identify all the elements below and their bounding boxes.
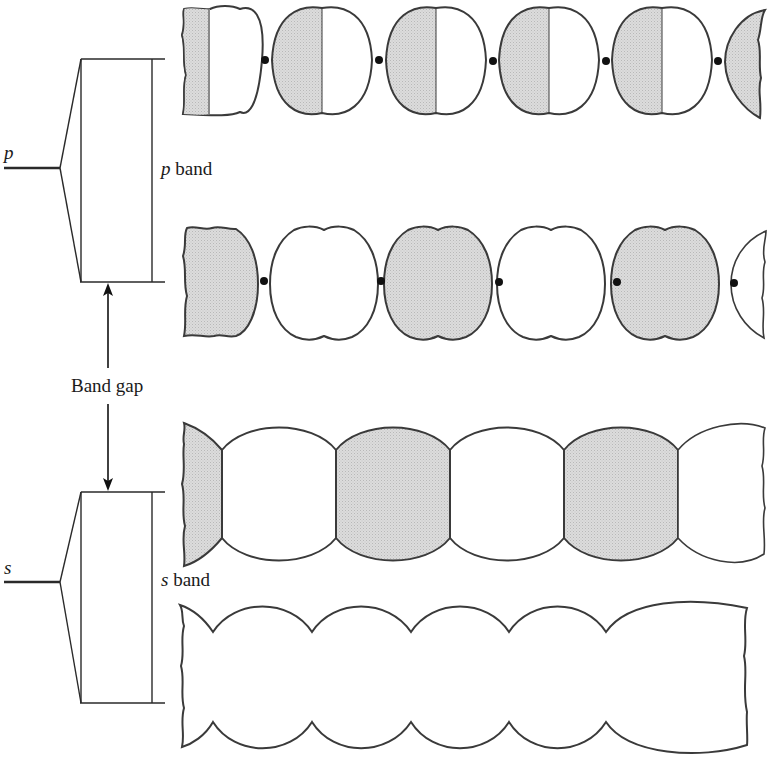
orbital-partial-left <box>183 227 258 336</box>
node-dot <box>495 278 503 286</box>
s-fan-upper-line <box>60 492 81 582</box>
p-band-antibonding-row <box>183 227 766 340</box>
p-level-label: p <box>4 143 14 162</box>
s-bonding-band-outline <box>180 602 747 753</box>
s-level-label: s <box>4 558 11 577</box>
p-band-bonding-row <box>182 6 765 118</box>
node-dot <box>613 278 621 286</box>
p-band-label: p band <box>161 159 212 178</box>
p-orbital-1 <box>272 7 372 114</box>
s-band-bonding-row <box>180 602 747 753</box>
node-dot <box>602 57 610 65</box>
node-dot <box>375 56 383 64</box>
p-orbital-white-2 <box>497 227 605 340</box>
p-band-word: band <box>175 158 212 179</box>
node-dot <box>489 57 497 65</box>
p-orbital-shaded-2 <box>611 227 719 340</box>
p-orbital-3 <box>499 7 599 114</box>
s-segment-white-2 <box>450 428 564 561</box>
s-segment-partial-left <box>182 423 222 566</box>
node-dot <box>261 56 269 64</box>
s-level-diagram <box>4 492 165 703</box>
p-fan-upper-line <box>60 59 81 168</box>
node-dot <box>730 279 738 287</box>
p-level-diagram <box>4 59 165 282</box>
s-band-word: band <box>173 569 210 590</box>
p-orbital-shaded-1 <box>384 227 492 340</box>
s-segment-shaded-1 <box>336 428 450 561</box>
p-band-symbol: p <box>161 158 171 179</box>
s-segment-white-1 <box>222 428 336 561</box>
band-gap-label: Band gap <box>71 376 143 395</box>
node-dot <box>260 277 268 285</box>
s-segment-partial-right <box>678 424 765 563</box>
p-orbital-4 <box>612 7 712 114</box>
s-band-symbol: s <box>161 569 168 590</box>
s-segment-shaded-2 <box>564 428 678 561</box>
s-band-label: s band <box>161 570 210 589</box>
s-fan-lower-line <box>60 582 81 703</box>
s-band-antibonding-row <box>182 423 765 566</box>
node-dot <box>377 277 385 285</box>
p-fan-lower-line <box>60 168 81 282</box>
p-orbital-2 <box>386 7 486 114</box>
node-dot <box>714 57 722 65</box>
orbital-partial-right <box>725 10 765 118</box>
p-orbital-white-1 <box>270 227 378 340</box>
